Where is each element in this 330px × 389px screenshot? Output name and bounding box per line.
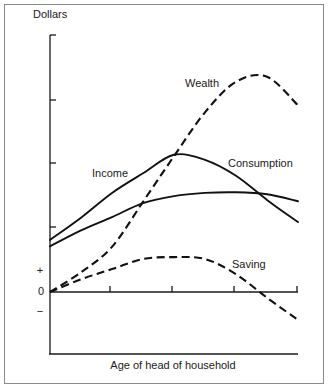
income-label: Income — [92, 167, 128, 179]
saving-label: Saving — [232, 258, 266, 270]
plus-sign-label: + — [37, 264, 43, 276]
consumption-line — [50, 192, 298, 246]
consumption-label: Consumption — [228, 157, 293, 169]
y-axis-label: Dollars — [33, 8, 68, 20]
x-axis-label: Age of head of household — [110, 359, 235, 371]
zero-label: 0 — [38, 285, 44, 297]
minus-sign-label: − — [37, 305, 43, 317]
life-cycle-chart: Dollars Age of head of household + 0 − I… — [0, 0, 330, 389]
wealth-label: Wealth — [185, 77, 219, 89]
